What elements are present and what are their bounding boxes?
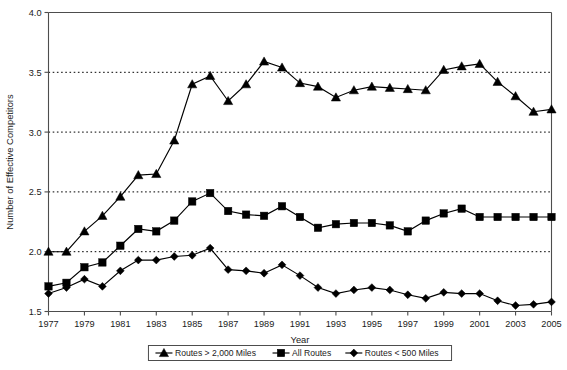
y-tick-label-2.0: 2.0 xyxy=(29,247,42,257)
data-point-3-1977 xyxy=(45,290,53,298)
data-point-3-1985 xyxy=(188,251,196,259)
data-point-2-1982 xyxy=(135,225,142,232)
x-tick-label-1987: 1987 xyxy=(218,319,238,329)
x-tick-label-1995: 1995 xyxy=(362,319,382,329)
data-point-3-2002 xyxy=(494,297,502,305)
chart-container: 1.52.02.53.03.54.0 197719791981198319851… xyxy=(0,0,567,370)
data-point-3-1995 xyxy=(368,284,376,292)
data-point-3-1998 xyxy=(422,294,430,302)
y-tick-label-1.5: 1.5 xyxy=(29,307,42,317)
data-point-2-1981 xyxy=(117,242,124,249)
legend-marker-square-icon xyxy=(277,349,284,356)
data-point-3-2004 xyxy=(530,300,538,308)
x-tick-label-1989: 1989 xyxy=(254,319,274,329)
y-axis-title: Number of Effective Competitors xyxy=(4,94,15,230)
x-tick-label-1979: 1979 xyxy=(74,319,94,329)
chart-legend: Routes > 2,000 MilesAll RoutesRoutes < 5… xyxy=(148,346,451,361)
data-point-3-1984 xyxy=(170,253,178,261)
x-tick-label-1985: 1985 xyxy=(182,319,202,329)
data-point-3-1989 xyxy=(260,269,268,277)
data-point-3-1996 xyxy=(386,286,394,294)
data-point-2-1998 xyxy=(422,217,429,224)
data-point-2-1979 xyxy=(81,264,88,271)
x-tick-label-1981: 1981 xyxy=(110,319,130,329)
data-point-2-1999 xyxy=(440,210,447,217)
series-line-1 xyxy=(49,62,552,252)
data-point-1-1983 xyxy=(152,169,161,177)
data-point-1-1984 xyxy=(170,136,179,144)
data-point-3-1990 xyxy=(278,261,286,269)
data-point-1-2005 xyxy=(547,105,556,113)
y-tick-label-3.5: 3.5 xyxy=(29,68,42,78)
x-tick-label-1977: 1977 xyxy=(38,319,58,329)
axes-group xyxy=(49,13,552,312)
data-point-2-2005 xyxy=(548,213,555,220)
data-point-2-1985 xyxy=(189,198,196,205)
data-point-3-1997 xyxy=(404,291,412,299)
y-tick-label-4.0: 4.0 xyxy=(29,8,42,18)
x-tick-label-1991: 1991 xyxy=(290,319,310,329)
data-point-1-1989 xyxy=(259,57,268,65)
data-point-1-2001 xyxy=(475,59,484,67)
x-tick-label-1999: 1999 xyxy=(433,319,453,329)
gridlines-group xyxy=(49,72,552,251)
effective-competitors-line-chart: 1.52.02.53.03.54.0 197719791981198319851… xyxy=(0,0,567,370)
y-tick-label-3.0: 3.0 xyxy=(29,128,42,138)
data-point-3-1979 xyxy=(81,275,89,283)
data-point-2-1995 xyxy=(368,219,375,226)
data-point-3-1991 xyxy=(296,272,304,280)
data-point-2-1992 xyxy=(314,224,321,231)
x-axis-title: Year xyxy=(291,334,310,345)
data-point-2-2004 xyxy=(530,213,537,220)
data-point-2-1996 xyxy=(386,222,393,229)
data-point-1-1995 xyxy=(367,82,376,90)
x-tick-labels-group: 1977197919811983198519871989199119931995… xyxy=(38,319,561,329)
data-point-2-2002 xyxy=(494,213,501,220)
data-point-1-1985 xyxy=(188,80,197,88)
data-point-1-1993 xyxy=(331,93,340,101)
data-point-2-1983 xyxy=(153,228,160,235)
data-point-2-1980 xyxy=(99,259,106,266)
data-point-2-1997 xyxy=(404,228,411,235)
x-tick-label-1993: 1993 xyxy=(326,319,346,329)
data-point-2-1988 xyxy=(242,211,249,218)
data-point-3-1988 xyxy=(242,267,250,275)
data-point-3-1982 xyxy=(134,256,142,264)
y-tick-label-2.5: 2.5 xyxy=(29,187,42,197)
data-point-2-1984 xyxy=(171,217,178,224)
data-point-3-1992 xyxy=(314,284,322,292)
data-point-3-2003 xyxy=(512,302,520,310)
x-tick-label-1997: 1997 xyxy=(398,319,418,329)
legend-item-2[interactable]: All Routes xyxy=(273,348,332,358)
x-tick-label-2001: 2001 xyxy=(469,319,489,329)
legend-label-3: Routes < 500 Miles xyxy=(365,348,439,358)
series-3 xyxy=(45,244,556,309)
legend-label-1: Routes > 2,000 Miles xyxy=(175,348,256,358)
data-point-2-1991 xyxy=(296,213,303,220)
data-point-2-1994 xyxy=(350,219,357,226)
data-point-2-1986 xyxy=(206,189,213,196)
data-point-3-1993 xyxy=(332,290,340,298)
x-tick-label-2005: 2005 xyxy=(541,319,561,329)
data-point-3-2000 xyxy=(458,290,466,298)
data-point-2-1977 xyxy=(45,283,52,290)
data-point-2-1989 xyxy=(260,212,267,219)
y-tick-labels-group: 1.52.02.53.03.54.0 xyxy=(29,8,42,317)
data-point-2-1987 xyxy=(224,207,231,214)
data-point-3-2001 xyxy=(476,290,484,298)
data-point-3-1999 xyxy=(440,288,448,296)
data-point-1-2003 xyxy=(511,92,520,100)
data-point-3-2005 xyxy=(548,298,556,306)
series-1 xyxy=(44,57,556,255)
data-point-2-1993 xyxy=(332,220,339,227)
data-series-group xyxy=(44,57,556,309)
data-point-3-1994 xyxy=(350,286,358,294)
x-tick-label-1983: 1983 xyxy=(146,319,166,329)
data-point-2-1990 xyxy=(278,203,285,210)
data-point-2-2001 xyxy=(476,213,483,220)
legend-label-2: All Routes xyxy=(292,348,331,358)
data-point-3-1983 xyxy=(152,256,160,264)
data-point-2-2003 xyxy=(512,213,519,220)
data-point-2-2000 xyxy=(458,205,465,212)
x-tick-label-2003: 2003 xyxy=(505,319,525,329)
